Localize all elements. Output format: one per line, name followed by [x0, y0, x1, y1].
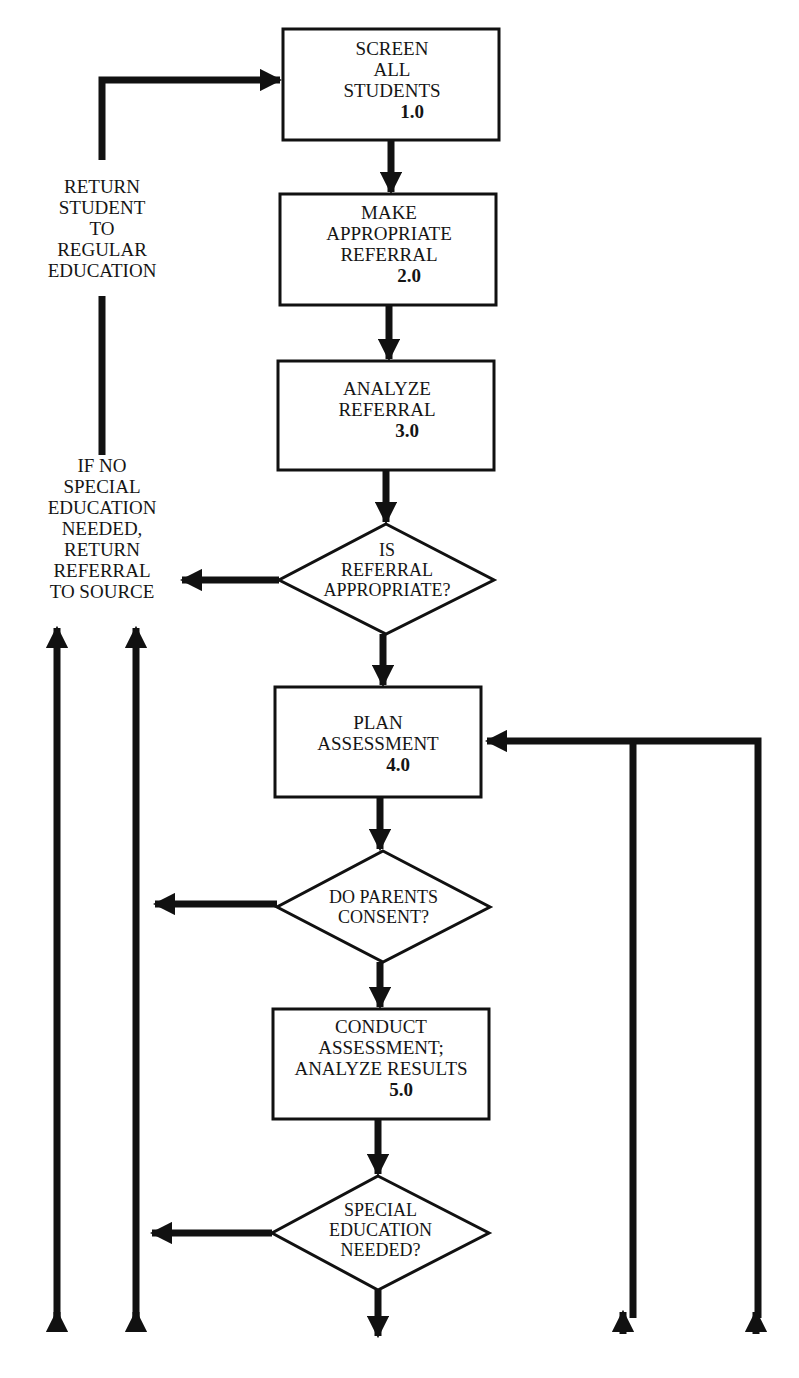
annotation-line: EDUCATION	[48, 260, 157, 281]
annotation-line: STUDENT	[59, 197, 146, 218]
node-label-line: APPROPRIATE	[326, 223, 452, 244]
node-make-appropriate-referral: MAKE APPROPRIATE REFERRAL 2.0	[280, 202, 498, 286]
annotation-line: IF NO	[77, 455, 126, 476]
annotation-line: EDUCATION	[48, 497, 157, 518]
annotation-line: REFERRAL	[53, 560, 150, 581]
annotation-line: REGULAR	[57, 239, 147, 260]
annotation-line: SPECIAL	[63, 476, 140, 497]
node-number: 5.0	[273, 1079, 489, 1100]
node-number: 4.0	[275, 754, 481, 775]
decision-label-line: APPROPRIATE?	[323, 580, 450, 600]
node-label-line: REFERRAL	[338, 399, 435, 420]
arrow-return-to-screen	[102, 80, 280, 160]
decision-label-line: CONSENT?	[338, 907, 429, 927]
annotation-line: RETURN	[64, 539, 140, 560]
decision-label-line: SPECIAL	[344, 1200, 417, 1220]
annotation-line: TO SOURCE	[50, 581, 155, 602]
annotation-line: NEEDED,	[62, 518, 143, 539]
node-label-line: ASSESSMENT;	[318, 1037, 444, 1058]
annotation-return-student: RETURN STUDENT TO REGULAR EDUCATION	[22, 176, 182, 281]
node-plan-assessment: PLAN ASSESSMENT 4.0	[275, 712, 481, 775]
node-number: 3.0	[278, 420, 496, 441]
annotation-line: RETURN	[64, 176, 140, 197]
node-label-line: SCREEN	[356, 38, 429, 59]
node-label-line: ASSESSMENT	[317, 733, 438, 754]
annotation-return-referral: IF NO SPECIAL EDUCATION NEEDED, RETURN R…	[22, 455, 182, 602]
node-label-line: MAKE	[361, 202, 417, 223]
node-label-line: PLAN	[353, 712, 403, 733]
decision-special-education-needed: SPECIAL EDUCATION NEEDED?	[272, 1200, 489, 1260]
node-label-line: ANALYZE RESULTS	[294, 1058, 467, 1079]
node-label-line: STUDENTS	[343, 80, 440, 101]
decision-do-parents-consent: DO PARENTS CONSENT?	[277, 887, 490, 927]
node-label-line: REFERRAL	[340, 244, 437, 265]
node-number: 2.0	[280, 265, 498, 286]
decision-label-line: IS	[379, 540, 395, 560]
node-label-line: ANALYZE	[343, 378, 431, 399]
node-label-line: ALL	[374, 59, 411, 80]
decision-is-referral-appropriate: IS REFERRAL APPROPRIATE?	[280, 540, 494, 600]
node-label-line: CONDUCT	[335, 1016, 427, 1037]
arrow-right-loop-outer	[487, 741, 758, 1318]
annotation-line: TO	[90, 218, 115, 239]
node-screen-all-students: SCREEN ALL STUDENTS 1.0	[283, 38, 501, 122]
node-conduct-assessment: CONDUCT ASSESSMENT; ANALYZE RESULTS 5.0	[273, 1016, 489, 1100]
decision-label-line: EDUCATION	[329, 1220, 432, 1240]
node-analyze-referral: ANALYZE REFERRAL 3.0	[278, 378, 496, 441]
decision-label-line: REFERRAL	[341, 560, 433, 580]
decision-label-line: NEEDED?	[341, 1240, 421, 1260]
decision-label-line: DO PARENTS	[329, 887, 438, 907]
node-number: 1.0	[283, 101, 501, 122]
